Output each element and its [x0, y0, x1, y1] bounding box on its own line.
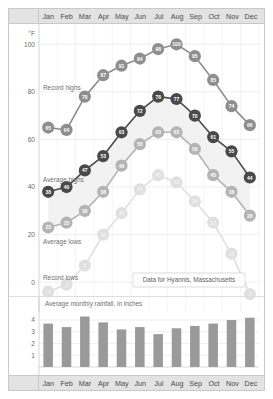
data-point-label-aug: 100 [172, 41, 181, 47]
data-point-label-aug: 42 [174, 179, 180, 185]
data-point-label-may: 29 [119, 210, 125, 216]
rain-y-tick-label-4: 4 [31, 316, 35, 323]
month-header-label-jun: Jun [131, 9, 149, 23]
data-point-label-nov: 74 [229, 103, 235, 109]
month-footer-label-oct: Oct [205, 376, 223, 390]
rainfall-chart: 1234Average monthly rainfall, in inches [9, 296, 264, 375]
data-point-label-jan: 38 [45, 189, 51, 195]
data-point-label-sep: 56 [192, 146, 198, 152]
data-point-label-feb: -1 [64, 282, 69, 288]
month-header-label-aug: Aug [168, 9, 186, 23]
data-point-label-jul: 63 [155, 129, 161, 135]
month-header-label-may: May [113, 9, 131, 23]
data-point-label-mar: 78 [82, 94, 88, 100]
y-tick-label-60: 60 [28, 136, 36, 143]
month-footer-label-dec: Dec [242, 376, 260, 390]
data-point-label-nov: 38 [229, 189, 235, 195]
month-header-label-apr: Apr [94, 9, 112, 23]
rain-bar-dec [245, 318, 255, 367]
header-corner-cell [9, 9, 39, 23]
data-point-label-dec: 66 [247, 122, 253, 128]
rainfall-chart-svg: 1234Average monthly rainfall, in inches [9, 297, 264, 375]
series-label-average-highs: Average highs [43, 176, 84, 184]
data-point-label-apr: 38 [100, 189, 106, 195]
rain-y-tick-label-3: 3 [31, 328, 35, 335]
month-footer-label-jul: Jul [150, 376, 168, 390]
data-point-label-jun: 58 [137, 141, 143, 147]
rain-bar-feb [62, 327, 72, 367]
month-header-labels: JanFebMarAprMayJunJulAugSepOctNovDec [39, 9, 260, 23]
series-label-record-highs: Record highs [43, 84, 81, 92]
series-label-record-lows: Record lows [43, 274, 78, 281]
rain-y-tick-label-1: 1 [31, 352, 35, 359]
data-point-label-oct: 25 [210, 220, 216, 226]
month-footer-label-feb: Feb [57, 376, 75, 390]
data-point-label-feb: 25 [64, 220, 70, 226]
month-header-label-sep: Sep [186, 9, 204, 23]
temperature-chart-svg: 020406080100°F-4-172029394542342512-5232… [9, 24, 264, 312]
data-point-label-sep: 95 [192, 53, 198, 59]
chart-frame: JanFebMarAprMayJunJulAugSepOctNovDec 020… [8, 8, 265, 391]
y-tick-label-100: 100 [24, 41, 35, 48]
data-point-label-feb: 40 [64, 184, 70, 190]
data-point-label-jan: 65 [45, 125, 51, 131]
data-point-label-oct: 45 [210, 172, 216, 178]
rain-bar-aug [172, 328, 182, 367]
data-point-label-jul: 78 [155, 94, 161, 100]
data-point-label-dec: 28 [247, 213, 253, 219]
weather-chart-page: JanFebMarAprMayJunJulAugSepOctNovDec 020… [0, 0, 273, 399]
data-point-label-mar: 7 [83, 263, 86, 269]
rain-bar-apr [98, 322, 108, 367]
month-footer-label-may: May [113, 376, 131, 390]
rain-bar-oct [208, 324, 218, 367]
data-point-label-jan: 23 [45, 224, 51, 230]
month-footer-band: JanFebMarAprMayJunJulAugSepOctNovDec [9, 375, 264, 390]
month-footer-labels: JanFebMarAprMayJunJulAugSepOctNovDec [39, 376, 260, 390]
rain-bar-jan [43, 324, 53, 367]
y-tick-label-80: 80 [28, 88, 36, 95]
y-axis-unit-label: °F [28, 30, 35, 37]
data-point-label-may: 91 [119, 63, 125, 69]
data-point-label-may: 63 [119, 129, 125, 135]
data-point-label-jun: 39 [137, 186, 143, 192]
temperature-chart: 020406080100°F-4-172029394542342512-5232… [9, 24, 264, 312]
month-header-band: JanFebMarAprMayJunJulAugSepOctNovDec [9, 9, 264, 24]
month-header-label-feb: Feb [57, 9, 75, 23]
month-header-label-jul: Jul [150, 9, 168, 23]
callout-text: Data for Hyannis, Massachusetts [143, 276, 235, 284]
month-header-label-oct: Oct [205, 9, 223, 23]
data-point-label-aug: 63 [174, 129, 180, 135]
y-tick-label-20: 20 [28, 231, 36, 238]
y-tick-label-40: 40 [28, 183, 36, 190]
data-point-label-sep: 34 [192, 198, 198, 204]
rain-bar-nov [227, 320, 237, 367]
rain-bar-mar [80, 317, 90, 367]
data-point-label-sep: 70 [192, 113, 198, 119]
y-tick-label-0: 0 [31, 279, 35, 286]
month-header-label-nov: Nov [223, 9, 241, 23]
footer-corner-cell [9, 376, 39, 390]
data-point-label-jun: 94 [137, 56, 143, 62]
data-point-label-dec: 44 [247, 175, 253, 181]
data-point-label-aug: 77 [174, 96, 180, 102]
rain-y-tick-label-2: 2 [31, 340, 35, 347]
rainfall-chart-title: Average monthly rainfall, in inches [45, 300, 142, 308]
month-header-label-jan: Jan [39, 9, 57, 23]
data-point-label-jan: -4 [46, 289, 51, 295]
data-point-label-apr: 20 [100, 232, 106, 238]
data-point-label-jul: 45 [155, 172, 161, 178]
data-point-label-jul: 98 [155, 46, 161, 52]
data-point-label-apr: 87 [100, 72, 106, 78]
month-footer-label-apr: Apr [94, 376, 112, 390]
data-point-label-jun: 72 [137, 108, 143, 114]
data-point-label-mar: 30 [82, 208, 88, 214]
data-point-label-oct: 61 [210, 134, 216, 140]
month-footer-label-sep: Sep [186, 376, 204, 390]
data-point-label-feb: 64 [64, 127, 70, 133]
month-footer-label-nov: Nov [223, 376, 241, 390]
month-header-label-mar: Mar [76, 9, 94, 23]
data-point-label-may: 49 [119, 163, 125, 169]
data-point-label-nov: 12 [229, 251, 235, 257]
rain-bar-sep [190, 326, 200, 367]
month-header-label-dec: Dec [242, 9, 260, 23]
